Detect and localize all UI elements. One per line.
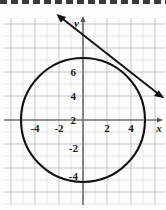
y-tick-label-2: 2 (71, 114, 77, 126)
y-tick-label-6: 6 (71, 66, 77, 78)
x-axis-label: x (155, 122, 162, 134)
x-tick-label-2: 2 (104, 122, 110, 134)
y-axis-label: y (72, 17, 79, 29)
scan-top-edge (0, 0, 166, 4)
x-tick-label-neg4: -4 (30, 122, 40, 134)
y-tick-label-neg4: -4 (69, 170, 79, 182)
coordinate-plane: 6 4 2 -2 -4 -4 -2 2 4 y x (0, 0, 166, 210)
graph-figure: 6 4 2 -2 -4 -4 -2 2 4 y x -2 (0, 0, 166, 210)
x-tick-label-neg2: -2 (54, 122, 64, 134)
y-tick-label-4: 4 (71, 90, 77, 102)
y-tick-label-neg2: -2 (69, 142, 79, 154)
x-tick-label-4: 4 (128, 122, 134, 134)
